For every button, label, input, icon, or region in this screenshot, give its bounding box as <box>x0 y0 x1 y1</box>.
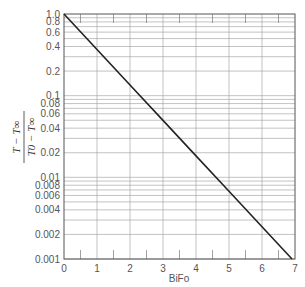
y-tick-label: 0.2 <box>46 66 60 77</box>
y-tick-label: 0.004 <box>35 204 60 215</box>
y-tick-label: 0.02 <box>41 147 61 158</box>
y-tick-label: 0.06 <box>41 108 61 119</box>
y-tick-labels: 1.00.80.60.40.20.10.080.060.040.020.010.… <box>35 9 60 265</box>
chart: 01234567 1.00.80.60.40.20.10.080.060.040… <box>0 0 305 287</box>
y-tick-label: 0.4 <box>46 41 60 52</box>
x-tick-label: 0 <box>61 263 67 274</box>
x-tick-label: 1 <box>94 263 100 274</box>
x-tick-label: 7 <box>292 263 298 274</box>
y-tick-label: 0.6 <box>46 27 60 38</box>
x-tick-label: 6 <box>259 263 265 274</box>
y-axis-title-denominator: T0 − T∞ <box>25 118 37 157</box>
x-tick-label: 2 <box>127 263 133 274</box>
axis-ticks <box>81 14 279 259</box>
y-tick-label: 0.001 <box>35 254 60 265</box>
data-line <box>64 14 292 259</box>
y-tick-label: 0.002 <box>35 229 60 240</box>
x-tick-label: 3 <box>160 263 166 274</box>
y-tick-label: 0.04 <box>41 123 61 134</box>
y-tick-label: 0.006 <box>35 190 60 201</box>
x-axis-title: BiFo <box>169 273 190 284</box>
y-axis-title: T − T∞ T0 − T∞ <box>10 111 37 163</box>
y-axis-title-numerator: T − T∞ <box>10 120 22 153</box>
x-tick-label: 5 <box>226 263 232 274</box>
x-tick-label: 4 <box>193 263 199 274</box>
